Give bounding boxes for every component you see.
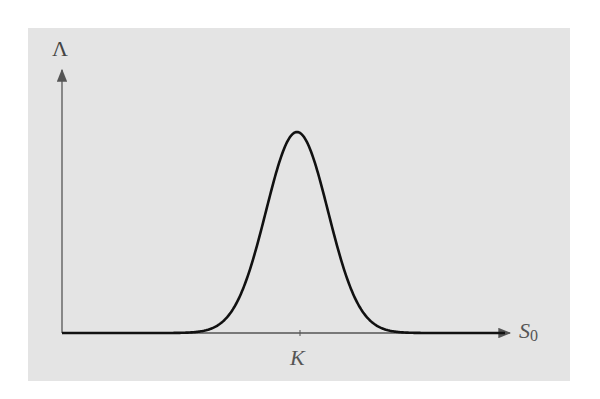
lambda-curve bbox=[62, 132, 505, 333]
y-axis-label: Λ bbox=[52, 36, 68, 62]
x-axis-label: S0 bbox=[519, 318, 538, 345]
chart-plot bbox=[0, 0, 600, 399]
k-tick-label: K bbox=[290, 345, 305, 371]
